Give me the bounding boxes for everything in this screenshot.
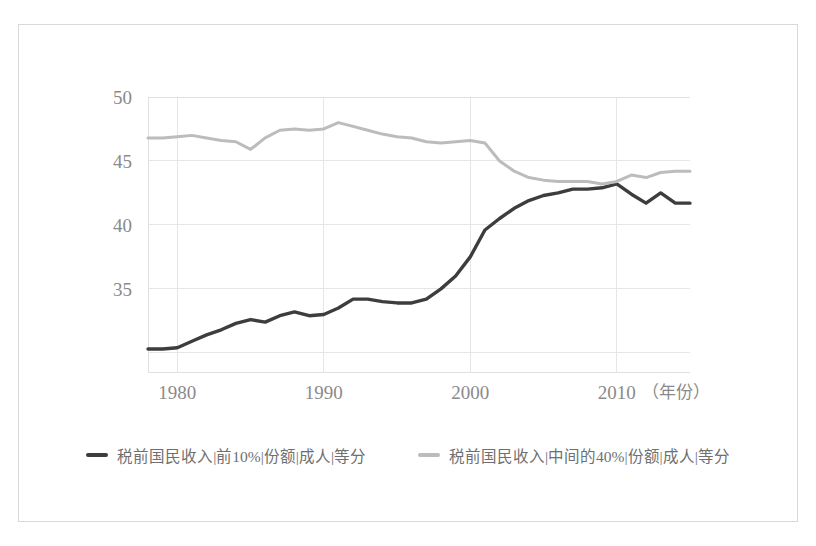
y-axis-tick-labels: 35404550 [113, 87, 132, 300]
series-line-0 [148, 184, 690, 349]
grid-layer [148, 97, 690, 372]
legend-label-middle40: 税前国民收入|中间的40%|份额|成人|等分 [449, 444, 730, 466]
plot-area-border [148, 97, 690, 372]
x-tick-label: 2000 [451, 382, 489, 403]
legend-swatch-top10 [86, 453, 108, 457]
y-tick-label: 45 [113, 151, 132, 172]
legend-item-middle40[interactable]: 税前国民收入|中间的40%|份额|成人|等分 [418, 444, 730, 466]
y-tick-label: 40 [113, 215, 132, 236]
y-tick-label: 35 [113, 279, 132, 300]
y-tick-label: 50 [113, 87, 132, 108]
x-tick-label: 2010 [598, 382, 636, 403]
x-tick-label: 1980 [158, 382, 196, 403]
x-axis-unit-label: （年份） [642, 383, 710, 402]
chart-legend: 税前国民收入|前10%|份额|成人|等分 税前国民收入|中间的40%|份额|成人… [18, 444, 798, 466]
legend-item-top10[interactable]: 税前国民收入|前10%|份额|成人|等分 [86, 444, 366, 466]
x-tick-label: 1990 [305, 382, 343, 403]
series-layer [148, 123, 690, 349]
x-axis-tick-labels: 1980199020002010 [158, 382, 635, 403]
series-line-1 [148, 123, 690, 184]
legend-label-top10: 税前国民收入|前10%|份额|成人|等分 [117, 444, 366, 466]
legend-swatch-middle40 [418, 453, 440, 457]
